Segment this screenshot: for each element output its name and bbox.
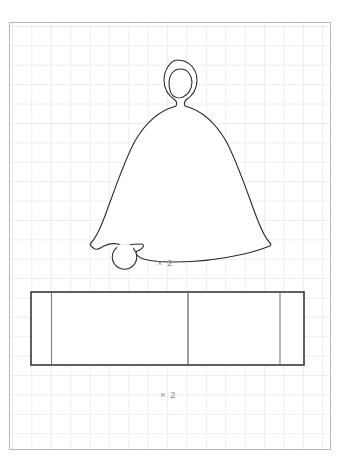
strip-multiplier-label: × 2 — [160, 389, 176, 400]
bell-multiplier-label: × 2 — [157, 257, 173, 268]
pattern-sheet: × 2 × 2 — [0, 0, 347, 471]
sheet-frame — [9, 22, 331, 450]
graph-paper-grid — [10, 23, 330, 449]
